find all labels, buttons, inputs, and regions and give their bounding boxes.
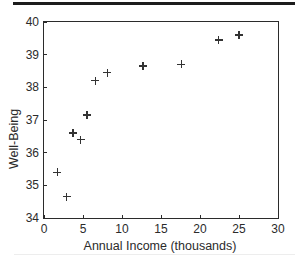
y-tick-mark: [44, 218, 47, 219]
x-tick-mark: [200, 215, 201, 218]
y-tick-label: 35: [0, 178, 39, 192]
y-tick-label: 34: [0, 211, 39, 225]
x-tick-mark: [83, 215, 84, 218]
x-tick-label: 30: [263, 222, 293, 236]
y-tick-label: 40: [0, 15, 39, 29]
y-tick-mark: [44, 22, 47, 23]
x-tick-mark: [239, 215, 240, 218]
data-point-marker: [103, 69, 111, 77]
data-point-marker: [235, 31, 243, 39]
x-tick-mark: [278, 215, 279, 218]
data-point-marker: [69, 129, 77, 137]
data-point-marker: [53, 168, 61, 176]
y-tick-label: 38: [0, 80, 39, 94]
data-point-marker: [215, 36, 223, 44]
x-tick-mark: [161, 215, 162, 218]
y-tick-mark: [44, 185, 47, 186]
y-tick-label: 37: [0, 113, 39, 127]
x-tick-label: 10: [107, 222, 137, 236]
data-point-marker: [91, 77, 99, 85]
x-tick-mark: [122, 215, 123, 218]
chart: Annual Income (thousands) Well-Being 051…: [0, 0, 295, 262]
y-axis-title: Well-Being: [6, 92, 22, 186]
y-tick-mark: [44, 152, 47, 153]
data-point-marker: [139, 62, 147, 70]
y-tick-label: 39: [0, 48, 39, 62]
x-axis-title: Annual Income (thousands): [43, 239, 277, 253]
plot-field: [44, 22, 278, 218]
data-point-marker: [63, 193, 71, 201]
data-point-marker: [77, 136, 85, 144]
x-tick-label: 20: [185, 222, 215, 236]
data-point-marker: [83, 111, 91, 119]
y-tick-mark: [44, 120, 47, 121]
data-point-marker: [177, 60, 185, 68]
x-tick-label: 5: [68, 222, 98, 236]
y-tick-label: 36: [0, 146, 39, 160]
bottom-rule: [14, 254, 295, 255]
x-tick-label: 15: [146, 222, 176, 236]
y-tick-mark: [44, 54, 47, 55]
x-tick-label: 25: [224, 222, 254, 236]
y-tick-mark: [44, 87, 47, 88]
plot-box: [43, 21, 279, 219]
